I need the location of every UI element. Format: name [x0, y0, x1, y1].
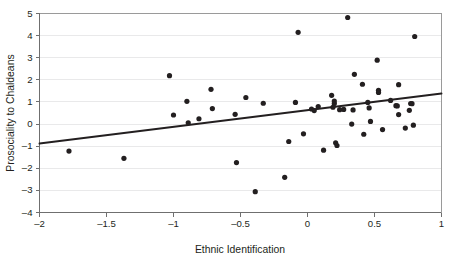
y-tick-label-5: 5	[27, 8, 32, 19]
data-point	[253, 189, 258, 194]
y-tick-label-1: 1	[27, 96, 32, 107]
y-axis-title: Prosociality to Chaldeans	[5, 54, 16, 171]
data-point	[184, 99, 189, 104]
data-point	[234, 160, 239, 165]
data-point	[360, 82, 365, 87]
y-tick-label-0: 0	[27, 118, 32, 129]
x-tick-label--1.5: –1.5	[97, 218, 116, 229]
y-tick-label--4: –4	[22, 207, 33, 218]
data-point-group	[66, 15, 417, 194]
regression-fit-line	[40, 94, 442, 144]
y-tick-label-4: 4	[27, 30, 33, 41]
y-axis-tickmarks	[36, 14, 40, 213]
data-point	[301, 131, 306, 136]
data-point	[349, 121, 354, 126]
data-point	[296, 30, 301, 35]
data-point	[409, 101, 414, 106]
data-point	[282, 175, 287, 180]
x-tick-label-1: 1	[439, 218, 444, 229]
data-point	[341, 107, 346, 112]
data-point	[121, 156, 126, 161]
prosociality-vs-ethnic-identification-chart: –2–1.5–1–0.500.51 –4–3–2–1012345 Ethnic …	[0, 0, 454, 262]
data-point	[396, 112, 401, 117]
data-point	[350, 107, 355, 112]
data-point	[196, 116, 201, 121]
data-point	[210, 106, 215, 111]
x-tick-label--0.5: –0.5	[231, 218, 250, 229]
data-point	[316, 104, 321, 109]
regression-line	[40, 94, 442, 144]
data-point	[365, 100, 370, 105]
plot-frame	[40, 14, 442, 213]
x-tick-label--1: –1	[168, 218, 179, 229]
data-point	[66, 148, 71, 153]
data-point	[368, 119, 373, 124]
x-axis-tick-labels: –2–1.5–1–0.500.51	[34, 218, 444, 229]
gridline-group	[40, 36, 442, 191]
data-point	[243, 95, 248, 100]
y-tick-label-3: 3	[27, 52, 32, 63]
data-point	[321, 148, 326, 153]
y-tick-label--1: –1	[22, 140, 33, 151]
scatter-plot-figure: –2–1.5–1–0.500.51 –4–3–2–1012345 Ethnic …	[0, 0, 454, 262]
data-point	[261, 101, 266, 106]
data-point	[332, 101, 337, 106]
data-point	[312, 108, 317, 113]
data-point	[376, 90, 381, 95]
data-point	[208, 87, 213, 92]
data-point	[403, 125, 408, 130]
data-point	[395, 103, 400, 108]
data-point	[171, 112, 176, 117]
x-axis-tickmarks	[40, 213, 442, 217]
y-axis-tick-labels: –4–3–2–1012345	[22, 8, 33, 218]
data-point	[361, 132, 366, 137]
data-point	[345, 15, 350, 20]
data-point	[286, 139, 291, 144]
data-point	[329, 93, 334, 98]
y-tick-label--2: –2	[22, 162, 33, 173]
data-point	[380, 127, 385, 132]
data-point	[334, 143, 339, 148]
data-point	[367, 105, 372, 110]
data-point	[375, 58, 380, 63]
data-point	[407, 108, 412, 113]
x-tick-label-0.5: 0.5	[368, 218, 381, 229]
data-point	[396, 82, 401, 87]
data-point	[167, 73, 172, 78]
data-point	[412, 34, 417, 39]
x-axis-title: Ethnic Identification	[195, 244, 285, 255]
data-point	[186, 120, 191, 125]
y-tick-label--3: –3	[22, 184, 33, 195]
x-tick-label--2: –2	[34, 218, 45, 229]
data-point	[293, 100, 298, 105]
data-point	[411, 123, 416, 128]
data-point	[233, 112, 238, 117]
data-point	[352, 72, 357, 77]
data-point	[388, 98, 393, 103]
y-tick-label-2: 2	[27, 74, 32, 85]
x-tick-label-0: 0	[305, 218, 310, 229]
